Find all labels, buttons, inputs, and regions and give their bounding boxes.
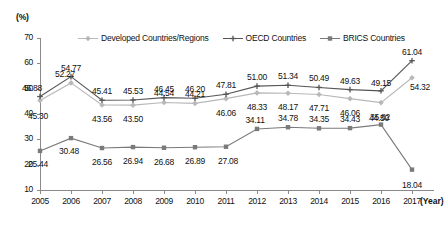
data-point-label: 49.63 <box>336 76 364 86</box>
data-point-label: 30.48 <box>55 146 83 156</box>
data-point-label: 47.81 <box>212 80 240 90</box>
data-point-label: 26.56 <box>88 157 116 167</box>
data-point-label: 34.43 <box>336 114 364 124</box>
data-point-label: 47.71 <box>305 103 333 113</box>
data-point-label: 35.82 <box>366 112 394 122</box>
data-point-label: 46.88 <box>18 83 46 93</box>
data-point-label: 27.08 <box>214 156 242 166</box>
data-point-label: 54.32 <box>406 82 434 92</box>
data-point-label: 45.53 <box>119 86 147 96</box>
data-point-label: 48.33 <box>243 102 271 112</box>
data-point-label: 45.30 <box>24 111 52 121</box>
data-point-label: 46.20 <box>181 84 209 94</box>
data-point-label: 43.50 <box>119 114 147 124</box>
data-point-label: 34.78 <box>274 113 302 123</box>
data-point-label: 26.68 <box>150 157 178 167</box>
data-point-label: 34.35 <box>305 114 333 124</box>
line-chart: (%) 70605040302010 200520062007200820092… <box>0 0 447 227</box>
data-point-label: 45.41 <box>88 86 116 96</box>
data-point-label: 18.04 <box>398 180 426 190</box>
data-point-label: 25.44 <box>24 159 52 169</box>
data-point-label: 51.00 <box>243 72 271 82</box>
data-point-label: 46.45 <box>150 84 178 94</box>
data-point-label: 26.89 <box>181 156 209 166</box>
data-point-label: 61.04 <box>398 47 426 57</box>
data-point-label: 50.49 <box>305 73 333 83</box>
data-point-label: 54.77 <box>57 63 85 73</box>
data-point-label: 49.15 <box>367 78 395 88</box>
data-point-label: 43.56 <box>88 114 116 124</box>
data-point-label: 46.06 <box>212 108 240 118</box>
data-point-label: 26.94 <box>119 156 147 166</box>
data-point-label: 34.11 <box>241 115 269 125</box>
data-point-label: 48.17 <box>274 102 302 112</box>
data-point-label: 51.34 <box>274 71 302 81</box>
